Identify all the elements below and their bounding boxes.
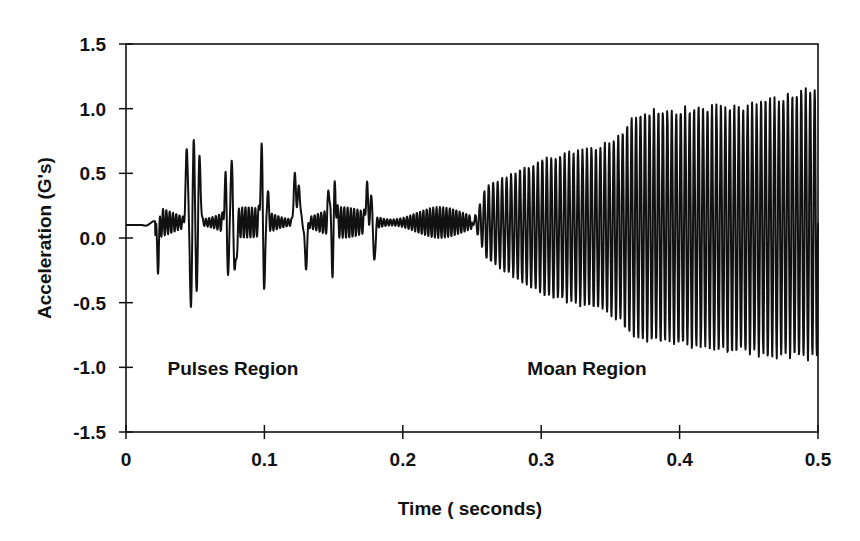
- y-tick-label: -0.5: [73, 293, 106, 314]
- y-tick-label: -1.5: [73, 422, 106, 443]
- x-axis-title: Time ( seconds): [398, 498, 542, 519]
- chart: 1.51.00.50.0-0.5-1.0-1.5 00.10.20.30.40.…: [0, 0, 860, 541]
- y-axis-title: Acceleration (G's): [34, 157, 55, 319]
- y-tick-label: 1.5: [80, 34, 107, 55]
- x-tick-label: 0.4: [666, 449, 693, 470]
- acceleration-trace: [126, 88, 818, 360]
- region-annotations: Pulses RegionMoan Region: [168, 358, 647, 379]
- x-tick-label: 0.5: [805, 449, 832, 470]
- x-tick-label: 0.2: [390, 449, 416, 470]
- y-tick-label: -1.0: [73, 357, 106, 378]
- region-label: Moan Region: [527, 358, 646, 379]
- x-tick-label: 0.3: [528, 449, 554, 470]
- x-tick-label: 0: [121, 449, 132, 470]
- y-tick-label: 0.5: [80, 163, 107, 184]
- y-tick-label: 1.0: [80, 99, 106, 120]
- y-axis-ticks: 1.51.00.50.0-0.5-1.0-1.5: [73, 34, 133, 443]
- region-label: Pulses Region: [168, 358, 299, 379]
- signal-line: [126, 88, 818, 360]
- y-tick-label: 0.0: [80, 228, 106, 249]
- x-tick-label: 0.1: [251, 449, 278, 470]
